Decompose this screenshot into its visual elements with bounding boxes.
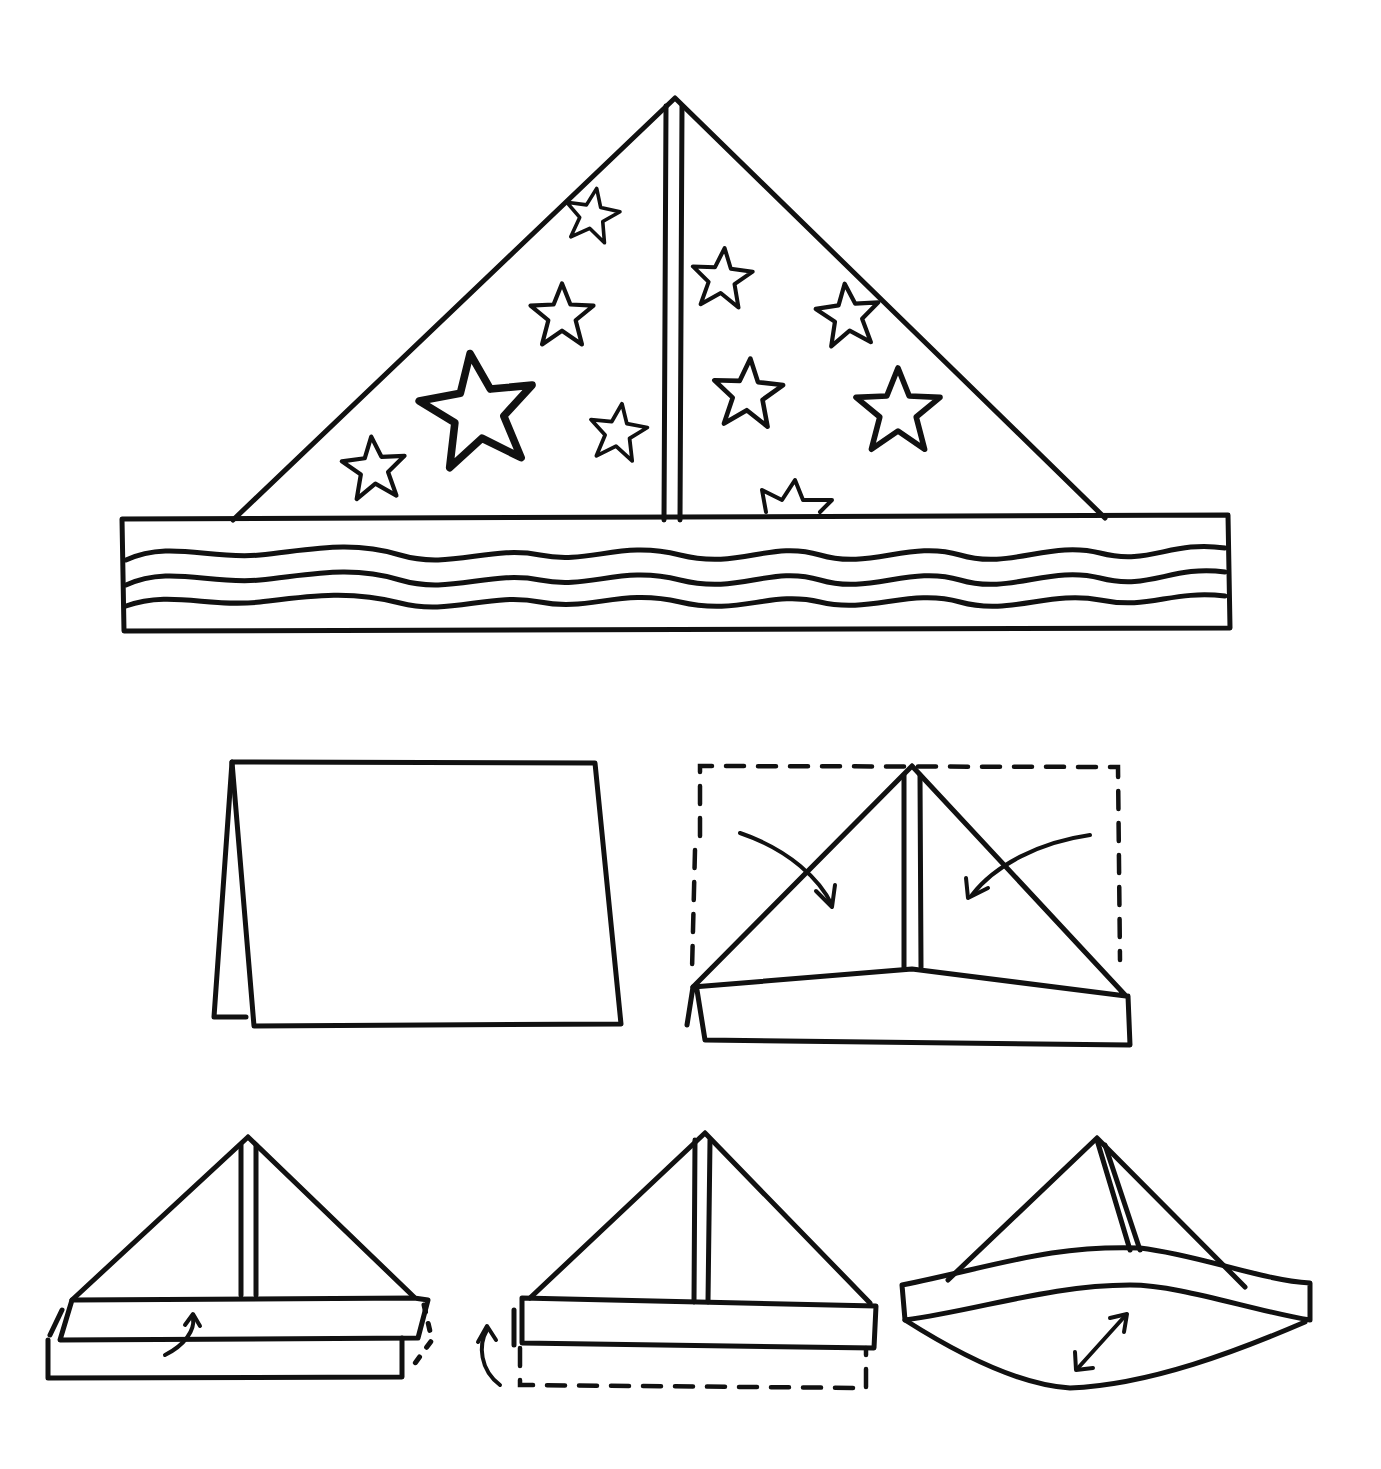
step-1-fold-in-half [214, 762, 621, 1026]
finished-hat [122, 98, 1230, 631]
step-3-fold-strip-up [48, 1137, 432, 1378]
step-5-open-hat [902, 1138, 1310, 1388]
step-4-turn-over-fold [478, 1133, 876, 1388]
star-decorations [340, 184, 940, 512]
hat-folding-diagram [0, 0, 1381, 1469]
step-2-fold-corners [687, 766, 1130, 1045]
